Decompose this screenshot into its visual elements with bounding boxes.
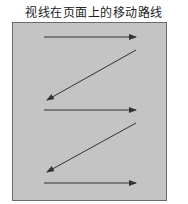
arrow-4 bbox=[47, 123, 136, 172]
eye-movement-path bbox=[0, 0, 188, 204]
arrow-2 bbox=[47, 50, 136, 100]
